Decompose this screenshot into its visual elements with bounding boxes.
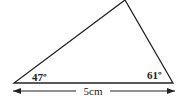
angle-label-left: 47º [32,71,47,83]
base-length-label: 5cm [84,85,103,97]
triangle-diagram: 47º 61º 5cm [0,0,181,102]
angle-label-right: 61º [147,69,162,81]
